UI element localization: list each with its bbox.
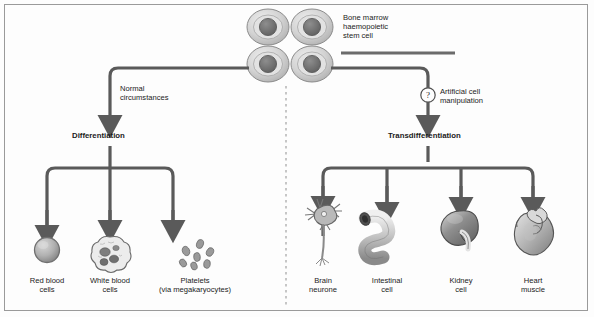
red-blood-cell-icon: [35, 238, 60, 263]
normal-condition-label: Normal circumstances: [120, 85, 169, 103]
caption-heart-muscle: Heart muscle: [495, 277, 571, 295]
intestine-icon: [358, 211, 389, 258]
artificial-condition-label: Artificial cell manipulation: [440, 88, 483, 106]
heart-icon: [514, 208, 553, 255]
neurone-icon: [305, 199, 342, 266]
kidney-icon: [441, 211, 478, 249]
differentiation-label: Differentiation: [72, 131, 125, 140]
caption-intestinal-cell: Intestinal cell: [349, 277, 425, 295]
caption-platelets: Platelets (via megakaryocytes): [139, 277, 251, 295]
diagram-canvas: ?: [0, 0, 594, 317]
stem-cell-label: Bone marrow haemopoietic stem cell: [343, 14, 388, 41]
white-blood-cell-icon: [91, 237, 131, 273]
platelets-icon: [178, 239, 215, 271]
transdifferentiation-label: Transdifferentiation: [388, 131, 461, 140]
question-mark-glyph: ?: [426, 90, 430, 100]
stem-cell-cluster-icon: [247, 9, 333, 82]
artificial-pathway-arrows: [323, 186, 533, 213]
diagram-graphics: ?: [0, 0, 594, 317]
caption-kidney-cell: Kidney cell: [423, 277, 499, 295]
question-mark-circle-icon: ?: [421, 88, 435, 102]
caption-white-blood-cells: White blood cells: [70, 277, 150, 295]
